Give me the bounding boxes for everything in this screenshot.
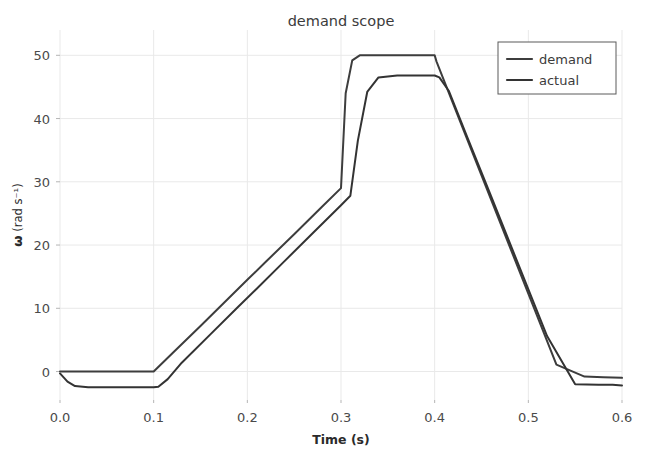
demand-scope-chart: 0.00.10.20.30.40.50.6 01020304050 demand… — [0, 0, 647, 471]
y-tick-label: 40 — [33, 112, 50, 127]
x-axis-label: Time (s) — [312, 432, 370, 447]
legend-label-actual: actual — [539, 73, 579, 88]
y-tick-label: 10 — [33, 301, 50, 316]
chart-legend: demandactual — [498, 42, 616, 94]
x-tick-label: 0.0 — [50, 410, 71, 425]
y-tick-label: 50 — [33, 48, 50, 63]
y-tick-label: 30 — [33, 175, 50, 190]
y-tick-label: 0 — [42, 365, 50, 380]
x-tick-label: 0.1 — [143, 410, 164, 425]
chart-figure: 0.00.10.20.30.40.50.6 01020304050 demand… — [0, 0, 647, 471]
x-tick-label: 0.2 — [237, 410, 258, 425]
legend-label-demand: demand — [539, 52, 592, 67]
x-tick-label: 0.3 — [331, 410, 352, 425]
chart-title: demand scope — [288, 13, 395, 29]
y-axis-label: ω (rad s⁻¹) — [10, 183, 25, 246]
svg-text:ω (rad s⁻¹): ω (rad s⁻¹) — [10, 183, 25, 246]
y-tick-label: 20 — [33, 238, 50, 253]
x-tick-label: 0.5 — [518, 410, 539, 425]
x-tick-label: 0.6 — [612, 410, 633, 425]
x-tick-label: 0.4 — [424, 410, 445, 425]
